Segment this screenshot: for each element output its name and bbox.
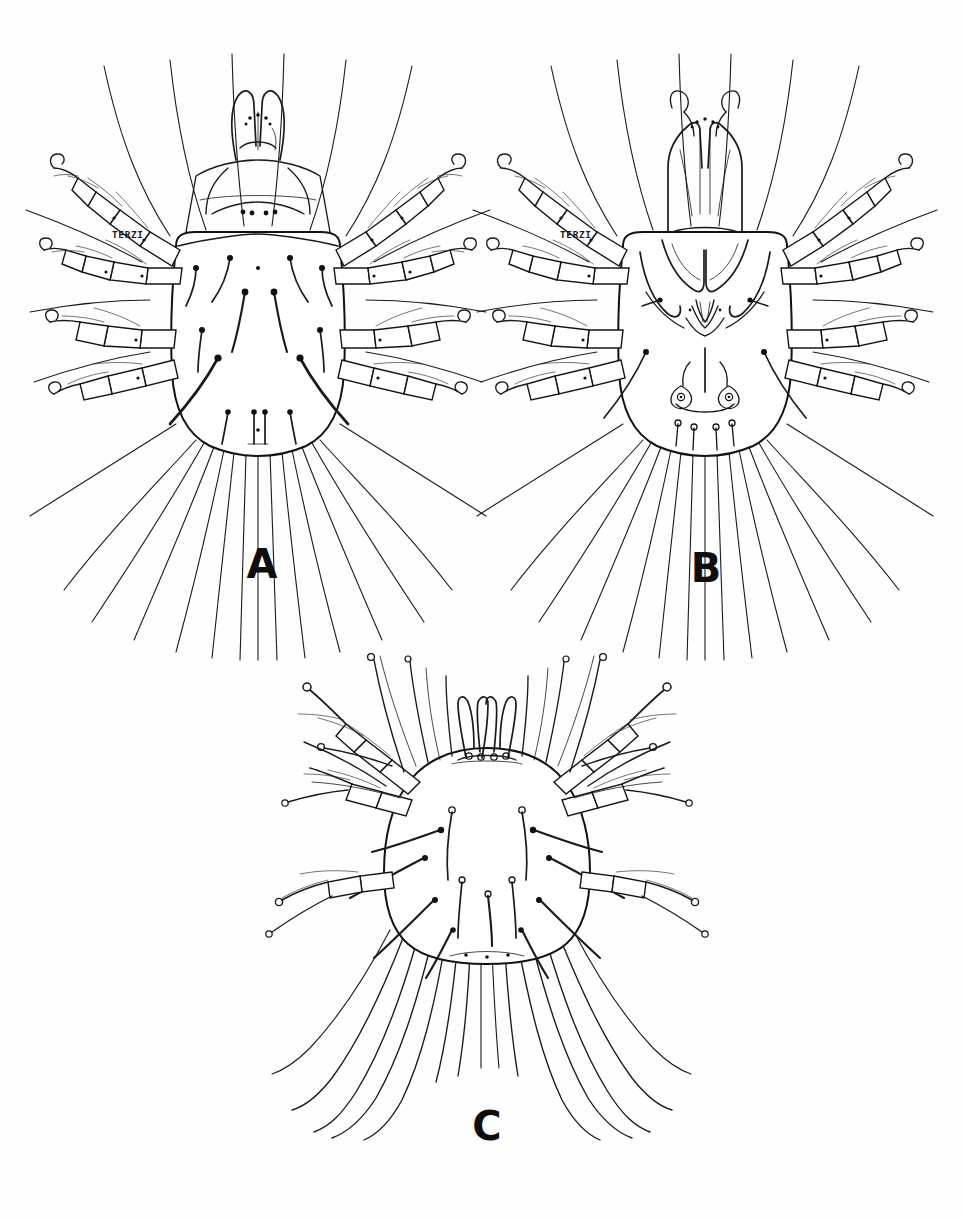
panel-b-signature: TERZI — [560, 229, 592, 240]
panel-a-label: A — [247, 541, 278, 587]
panel-c-label: C — [472, 1103, 501, 1149]
panel-a-signature: TERZI — [112, 229, 144, 240]
illustration-plate: TERZI A — [0, 0, 962, 1218]
plate-canvas: TERZI A — [0, 0, 962, 1218]
panel-b-label: B — [691, 545, 722, 591]
panel-b-idiosoma — [618, 232, 792, 456]
